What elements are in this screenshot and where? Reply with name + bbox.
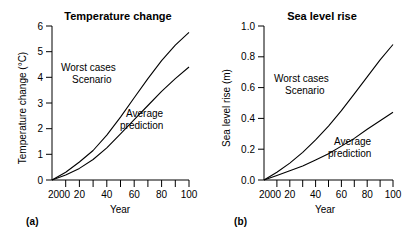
panel-a-average-line1: Average xyxy=(126,108,164,119)
panel-a-ytick-5: 5 xyxy=(37,46,43,57)
panel-b-ytick-0: 0.0 xyxy=(241,175,255,186)
panel-b-plot: Sea level rise Sea level rise (m) 0.0 0.… xyxy=(208,0,416,242)
panel-b-worst-line2: Scenario xyxy=(285,85,325,96)
panel-b-ytick-5: 1.0 xyxy=(241,21,255,32)
panel-a-average-line2: prediction xyxy=(120,120,163,131)
panel-a-worst-case-annotation: Worst cases Scenario xyxy=(61,62,116,85)
panel-a-average-annotation: Average prediction xyxy=(120,108,164,131)
panel-a-xtick-80: 80 xyxy=(156,189,168,200)
panel-a-label: (a) xyxy=(26,216,39,227)
panel-a-title: Temperature change xyxy=(64,10,171,22)
panel-a-xlabel: Year xyxy=(110,204,131,215)
panel-a-ytick-0: 0 xyxy=(37,175,43,186)
panel-b-xtick-40: 40 xyxy=(310,189,322,200)
panel-b-worst-case-annotation: Worst cases Scenario xyxy=(274,73,329,96)
panel-b-xtick-2000: 2000 xyxy=(259,189,282,200)
panel-b-ytick-2: 0.4 xyxy=(241,113,255,124)
panel-a-worst-line1: Worst cases xyxy=(61,62,116,73)
panel-b-worst-case-curve xyxy=(264,45,393,181)
panel-b-x-tick-labels: 2000 20 40 60 80 100 xyxy=(259,189,402,200)
panel-a-plot: Temperature change Temperature change (°… xyxy=(0,0,208,242)
panel-a-xtick-40: 40 xyxy=(101,189,113,200)
panel-a-xtick-60: 60 xyxy=(129,189,141,200)
panel-b-ylabel: Sea level rise (m) xyxy=(221,69,232,147)
panel-a-ytick-1: 1 xyxy=(37,149,43,160)
panel-b-ytick-1: 0.2 xyxy=(241,144,255,155)
panel-b-worst-line1: Worst cases xyxy=(274,73,329,84)
panel-b-xtick-60: 60 xyxy=(336,189,348,200)
panel-b-average-line1: Average xyxy=(334,136,372,147)
panel-b-x-ticks xyxy=(277,180,393,187)
panel-b-average-annotation: Average prediction xyxy=(328,136,372,159)
panel-a-worst-line2: Scenario xyxy=(72,74,112,85)
panel-a-x-tick-labels: 2000 20 40 60 80 100 xyxy=(48,189,198,200)
panel-a-ylabel: Temperature change (°C) xyxy=(17,52,28,164)
panel-b-average-line2: prediction xyxy=(328,148,371,159)
panel-b-label: (b) xyxy=(234,216,247,227)
panel-a-ytick-6: 6 xyxy=(37,21,43,32)
panel-b-ytick-3: 0.6 xyxy=(241,82,255,93)
panel-a-ytick-4: 4 xyxy=(37,72,43,83)
panel-a-y-ticks xyxy=(46,26,52,180)
panel-a-ytick-3: 3 xyxy=(37,98,43,109)
panel-b-y-tick-labels: 0.0 0.2 0.4 0.6 0.8 1.0 xyxy=(241,21,255,186)
panel-temperature-change: Temperature change Temperature change (°… xyxy=(0,0,208,242)
panel-b-y-ticks xyxy=(258,26,264,180)
panel-b-xtick-20: 20 xyxy=(284,189,296,200)
panel-a-x-ticks xyxy=(66,180,189,187)
panel-b-average-prediction-curve xyxy=(264,112,393,180)
panel-a-xtick-20: 20 xyxy=(74,189,86,200)
panel-sea-level-rise: Sea level rise Sea level rise (m) 0.0 0.… xyxy=(208,0,416,242)
panel-b-xlabel: Year xyxy=(315,204,336,215)
panel-b-xtick-100: 100 xyxy=(385,189,402,200)
panel-a-xtick-2000: 2000 xyxy=(48,189,71,200)
figure-container: Temperature change Temperature change (°… xyxy=(0,0,416,242)
panel-a-worst-case-curve xyxy=(52,32,189,180)
panel-a-ytick-2: 2 xyxy=(37,123,43,134)
panel-b-xtick-80: 80 xyxy=(362,189,374,200)
panel-b-ytick-4: 0.8 xyxy=(241,51,255,62)
panel-a-y-tick-labels: 0 1 2 3 4 5 6 xyxy=(37,21,43,186)
panel-a-xtick-100: 100 xyxy=(181,189,198,200)
panel-b-title: Sea level rise xyxy=(287,10,357,22)
